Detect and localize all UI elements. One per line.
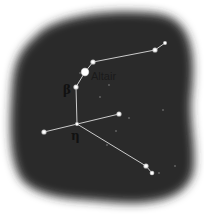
faint-star [99,96,101,98]
star-altair [82,69,89,76]
altair-label: Altair [91,71,116,82]
star-zeta [153,48,157,52]
star-beta [74,85,78,89]
star-delta [42,130,46,134]
star-lambda [144,164,148,168]
star-gamma [91,60,95,64]
star-iota [151,172,154,175]
faint-star [158,172,160,174]
eta-label: η [71,130,80,142]
star-eta [76,123,78,125]
faint-star [108,84,110,86]
faint-star [162,109,164,111]
constellation-map [0,0,204,214]
star-epsilon [164,42,166,44]
faint-star [128,117,130,119]
faint-star [79,72,81,74]
faint-star [115,130,117,132]
beta-label: β [63,84,71,96]
faint-star [174,165,176,167]
sky-blob [11,12,195,203]
faint-star [106,144,108,146]
star-theta [117,112,121,116]
